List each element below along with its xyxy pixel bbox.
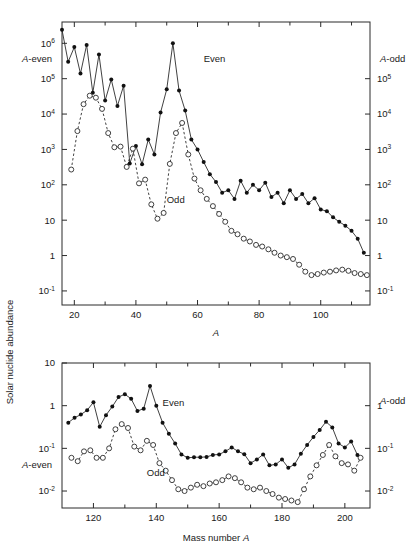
data-point [88,448,93,453]
data-point [239,480,244,485]
data-point [313,196,317,200]
data-point [266,247,271,252]
data-point [293,462,297,466]
data-point [118,144,123,149]
data-point [91,400,95,404]
data-point [66,60,70,64]
y-axis-title-right: A-odd [379,395,405,406]
data-point [132,444,137,449]
data-point [126,425,131,430]
data-point [270,492,275,497]
data-point [350,229,354,233]
data-point [173,441,177,445]
data-point [286,466,290,470]
data-point [255,457,259,461]
data-point [72,45,76,49]
data-point [159,111,163,115]
data-point [123,392,127,396]
data-point [148,384,152,388]
x-tick-label: 40 [131,309,142,320]
data-point [343,445,347,449]
data-point [337,220,341,224]
data-point [352,271,357,276]
data-point [232,476,237,481]
data-point [205,455,209,459]
data-point [93,95,98,100]
x-axis-title: Mass number A [183,532,250,543]
y-tick-label-left: 10 [44,357,55,368]
data-point [214,480,219,485]
data-point [282,201,286,205]
data-point [306,201,310,205]
data-point [143,177,148,182]
data-point [334,268,339,273]
y-tick-label-right: 10 [377,215,388,226]
data-point [113,427,118,432]
data-point [289,498,294,503]
data-point [151,442,156,447]
data-point [69,455,74,460]
data-point [349,439,353,443]
data-point [129,397,133,401]
data-point [192,455,196,459]
x-tick-label: 180 [274,512,290,523]
data-point [109,77,113,81]
data-point [75,459,80,464]
data-point [300,192,304,196]
data-point [261,452,265,456]
data-point [171,41,175,45]
data-point [119,422,124,427]
data-point [330,425,334,429]
data-point [214,180,218,184]
data-point [104,413,108,417]
data-point [226,474,231,479]
data-point [100,106,105,111]
data-point [204,196,209,201]
data-point [165,87,169,91]
data-point [124,164,129,169]
data-point [247,239,252,244]
data-point [173,131,178,136]
y-axis-title-left: A-even [21,53,52,64]
data-point [79,413,83,417]
data-point [308,474,313,479]
data-point [236,449,240,453]
data-point [226,188,230,192]
data-point [303,269,308,274]
data-point [358,455,363,460]
data-point [198,188,203,193]
data-point [201,484,206,489]
data-point [309,273,314,278]
data-point [69,167,74,172]
data-point [320,452,325,457]
data-point [346,462,351,467]
data-point [78,72,82,76]
data-point [242,452,246,456]
data-point [154,404,158,408]
data-point [340,267,345,272]
series-label-odd: Odd [167,194,185,205]
data-point [321,270,326,275]
data-point [269,195,273,199]
data-point [299,452,303,456]
data-point [135,409,139,413]
data-point [217,452,221,456]
data-point [155,216,160,221]
data-point [144,438,149,443]
x-tick-label: 160 [211,512,227,523]
data-point [364,273,369,278]
x-tick-label: 100 [313,309,329,320]
data-point [202,160,206,164]
data-point [180,120,185,125]
data-point [140,162,144,166]
data-point [343,224,347,228]
data-point [229,228,234,233]
data-point [220,478,225,483]
data-point [337,441,341,445]
data-point [288,188,292,192]
figure-solar-nuclide-abundance: 2040608010010610510410310210110-11051041… [0,0,416,546]
data-point [207,481,212,486]
data-point [339,461,344,466]
data-point [319,208,323,212]
data-point [327,269,332,274]
